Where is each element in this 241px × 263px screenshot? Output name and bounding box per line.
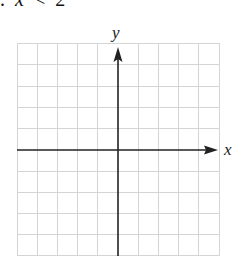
y-axis-label: y: [110, 23, 120, 42]
x-axis-label: x: [223, 140, 232, 159]
coordinate-plane: x y: [0, 0, 241, 263]
x-axis-arrow-icon: [204, 146, 218, 155]
y-axis: [114, 47, 123, 256]
